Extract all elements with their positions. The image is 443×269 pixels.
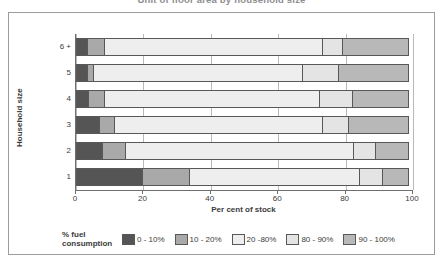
bar-segment[interactable] — [76, 168, 143, 186]
plot-area — [75, 34, 413, 191]
x-tick-label: 60 — [262, 194, 292, 203]
bar-segment[interactable] — [76, 116, 100, 134]
gridline — [211, 34, 212, 190]
bar-segment[interactable] — [342, 38, 409, 56]
bar-segment[interactable] — [104, 38, 323, 56]
bar-row — [76, 64, 413, 82]
stacked-bar[interactable] — [76, 116, 413, 134]
legend-label: 90 - 100% — [358, 235, 394, 244]
x-tick-label: 80 — [330, 194, 360, 203]
gridline — [413, 34, 414, 190]
bar-segment[interactable] — [348, 116, 409, 134]
legend-entry[interactable]: 10 - 20% — [175, 234, 230, 245]
gridline — [346, 34, 347, 190]
bar-row — [76, 142, 413, 160]
stacked-bar[interactable] — [76, 168, 413, 186]
bar-segment[interactable] — [76, 142, 103, 160]
legend-label: 10 - 20% — [190, 235, 222, 244]
legend-entry[interactable]: 80 - 90% — [286, 234, 341, 245]
x-tick-label: 40 — [195, 194, 225, 203]
stacked-bar[interactable] — [76, 38, 413, 56]
bar-segment[interactable] — [189, 168, 361, 186]
chart-figure: Unit of floor area by household size Hou… — [0, 0, 443, 269]
x-axis-title: Per cent of stock — [75, 205, 412, 214]
bar-segment[interactable] — [375, 142, 409, 160]
y-axis-title: Household size — [14, 72, 26, 164]
gridline — [143, 34, 144, 190]
gridline — [278, 34, 279, 190]
legend-label: 0 - 10% — [137, 235, 165, 244]
bar-segment[interactable] — [319, 90, 353, 108]
bar-segment[interactable] — [88, 90, 105, 108]
y-tick-label: 3 — [31, 120, 71, 130]
bar-segment[interactable] — [99, 116, 116, 134]
stacked-bar[interactable] — [76, 90, 413, 108]
bar-segment[interactable] — [352, 90, 409, 108]
x-tick-label: 0 — [60, 194, 90, 203]
bar-segment[interactable] — [114, 116, 323, 134]
chart-legend: % fuel consumption 0 - 10%10 - 20%20 -80… — [62, 226, 403, 252]
legend-label: 80 - 90% — [301, 235, 333, 244]
bar-segment[interactable] — [142, 168, 189, 186]
bar-segment[interactable] — [322, 116, 349, 134]
bar-segment[interactable] — [359, 168, 383, 186]
bar-segment[interactable] — [302, 64, 339, 82]
bar-row — [76, 38, 413, 56]
legend-entries: 0 - 10%10 - 20%20 -80%80 - 90%90 - 100% — [120, 234, 403, 245]
x-tick-label: 20 — [127, 194, 157, 203]
bar-segment[interactable] — [125, 142, 354, 160]
legend-entry[interactable]: 20 -80% — [232, 234, 285, 245]
bar-segment[interactable] — [322, 38, 342, 56]
y-tick-labels: 6 +54321 — [26, 34, 71, 190]
bar-segment[interactable] — [382, 168, 409, 186]
bar-row — [76, 168, 413, 186]
bar-segment[interactable] — [93, 64, 304, 82]
bar-row — [76, 116, 413, 134]
legend-entry[interactable]: 0 - 10% — [122, 234, 173, 245]
bar-segment[interactable] — [87, 38, 106, 56]
bar-row — [76, 90, 413, 108]
y-tick-label: 5 — [31, 68, 71, 78]
bar-segment[interactable] — [102, 142, 126, 160]
gridline — [76, 34, 77, 190]
legend-swatch — [343, 234, 356, 245]
bar-segment[interactable] — [104, 90, 320, 108]
y-tick-label: 6 + — [31, 42, 71, 52]
y-tick-label: 2 — [31, 146, 71, 156]
legend-swatch — [232, 234, 245, 245]
legend-swatch — [122, 234, 135, 245]
legend-swatch — [286, 234, 299, 245]
legend-entry[interactable]: 90 - 100% — [343, 234, 402, 245]
legend-label: 20 -80% — [247, 235, 277, 244]
x-tick-label: 100 — [397, 194, 427, 203]
legend-swatch — [175, 234, 188, 245]
stacked-bar[interactable] — [76, 142, 413, 160]
bar-segment[interactable] — [353, 142, 377, 160]
y-tick-label: 1 — [31, 172, 71, 182]
legend-title: % fuel consumption — [62, 230, 120, 249]
chart-title: Unit of floor area by household size — [0, 0, 443, 5]
bar-segment[interactable] — [338, 64, 409, 82]
x-tick-labels: 020406080100 — [75, 191, 412, 205]
stacked-bar[interactable] — [76, 64, 413, 82]
bar-segment[interactable] — [76, 90, 89, 108]
y-tick-label: 4 — [31, 94, 71, 104]
